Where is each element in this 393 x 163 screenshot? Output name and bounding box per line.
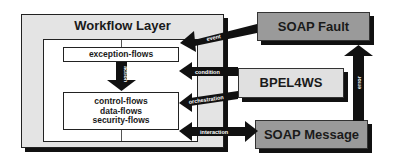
error-arrow-label: error <box>356 75 362 89</box>
event-arrow: event <box>180 24 257 52</box>
error-arrow: error <box>344 45 373 121</box>
interaction-arrow-label: interaction <box>200 129 229 135</box>
action-arrow-label: action <box>123 66 129 83</box>
action-arrow: action <box>107 62 136 91</box>
arrows-layer: action event condition orchestration int… <box>0 0 393 163</box>
interaction-arrow: interaction <box>179 121 258 142</box>
orchestration-arrow: orchestration <box>179 91 238 112</box>
condition-arrow-label: condition <box>195 69 220 75</box>
condition-arrow: condition <box>179 62 238 80</box>
